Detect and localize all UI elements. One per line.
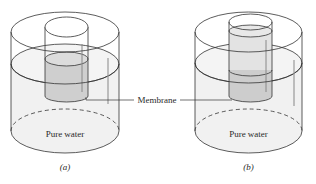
inner-liquid-surface-b [229,25,272,37]
panel-b: Pure water (b) [195,12,302,172]
pure-water-label-b: Pure water [229,129,268,139]
caption-a: (a) [60,162,71,172]
pure-water-label-a: Pure water [46,129,85,139]
inner-top-a [45,17,88,37]
caption-b: (b) [243,162,254,172]
panel-a: Pure water (a) [11,12,119,172]
osmosis-diagram: Pure water (a) Pure water (b) Membrane [0,0,316,184]
membrane-label: Membrane [138,95,177,105]
